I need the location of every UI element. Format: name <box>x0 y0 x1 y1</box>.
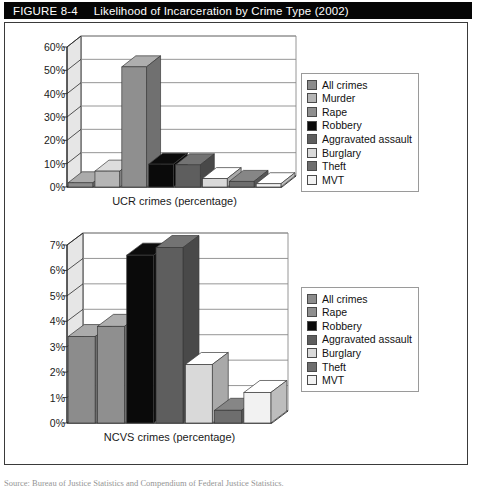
legend-item[interactable]: Rape <box>307 105 412 119</box>
legend-item[interactable]: Aggravated assault <box>307 333 412 347</box>
bar-front-face <box>95 171 120 187</box>
y-axis-tick-label: 30% <box>44 111 65 123</box>
legend-swatch-icon <box>307 107 317 117</box>
legend-item-label: Robbery <box>322 120 362 131</box>
chart-ucr-y-axis-labels: 0%10%20%30%40%50%60% <box>25 47 65 187</box>
bar-front-face <box>122 67 147 187</box>
y-axis-tick-label: 10% <box>44 158 65 170</box>
legend-item[interactable]: Theft <box>307 160 412 174</box>
bar-front-face <box>68 337 95 423</box>
y-axis-tick-label: 6% <box>50 264 65 276</box>
legend-item[interactable]: Burglary <box>307 146 412 160</box>
legend-item[interactable]: Rape <box>307 306 412 320</box>
y-axis-tick-label: 2% <box>50 366 65 378</box>
figure-number: FIGURE 8-4 <box>4 5 78 17</box>
legend-swatch-icon <box>307 161 317 171</box>
chart-ncvs-x-axis-label: NCVS crimes (percentage) <box>67 431 272 443</box>
bar-front-face <box>215 410 242 423</box>
legend-item-label: Theft <box>322 362 346 373</box>
y-axis-tick-label: 0% <box>50 417 65 429</box>
legend-swatch-icon <box>307 175 317 185</box>
y-axis-tick-label: 3% <box>50 341 65 353</box>
legend-item[interactable]: All crimes <box>307 78 412 92</box>
y-axis-tick-label: 50% <box>44 64 65 76</box>
legend-swatch-icon <box>307 321 317 331</box>
legend-swatch-icon <box>307 294 317 304</box>
legend-item[interactable]: Murder <box>307 92 412 106</box>
legend-item-label: Burglary <box>322 348 361 359</box>
legend-item-label: All crimes <box>322 294 368 305</box>
bar-front-face <box>256 184 281 187</box>
y-axis-tick-label: 0% <box>50 181 65 193</box>
chart-ucr-plot-area: 0%10%20%30%40%50%60%UCR crimes (percenta… <box>19 35 302 204</box>
y-axis-tick-label: 60% <box>44 41 65 53</box>
bar-front-face <box>185 365 212 423</box>
legend-swatch-icon <box>307 134 317 144</box>
legend-swatch-icon <box>307 80 317 90</box>
y-axis-tick-label: 5% <box>50 290 65 302</box>
bar-front-face <box>202 179 227 187</box>
legend-swatch-icon <box>307 348 317 358</box>
chart-ncvs-crimes: 0%1%2%3%4%5%6%7%NCVS crimes (percentage)… <box>19 235 455 463</box>
legend-item[interactable]: MVT <box>307 374 412 388</box>
bar-front-face <box>156 248 183 423</box>
legend-swatch-icon <box>307 93 317 103</box>
chart-ncvs-y-axis-labels: 0%1%2%3%4%5%6%7% <box>25 245 65 423</box>
y-axis-tick-label: 40% <box>44 88 65 100</box>
legend-item-label: Murder <box>322 93 355 104</box>
y-axis-tick-label: 20% <box>44 134 65 146</box>
legend-item-label: Aggravated assault <box>322 334 412 345</box>
bar-front-face <box>176 165 201 187</box>
y-axis-tick-label: 1% <box>50 392 65 404</box>
figure-frame: 0%10%20%30%40%50%60%UCR crimes (percenta… <box>4 22 468 465</box>
figure-title: Likelihood of Incarceration by Crime Typ… <box>78 5 349 17</box>
legend-swatch-icon <box>307 307 317 317</box>
legend-item[interactable]: Robbery <box>307 119 412 133</box>
chart-ncvs-legend: All crimesRapeRobberyAggravated assaultB… <box>301 287 419 392</box>
figure-header-bar: FIGURE 8-4 Likelihood of Incarceration b… <box>4 2 472 19</box>
bar-front-face <box>97 326 124 423</box>
legend-item-label: MVT <box>322 375 344 386</box>
legend-item[interactable]: Robbery <box>307 319 412 333</box>
legend-item[interactable]: Aggravated assault <box>307 132 412 146</box>
chart-ncvs-plot-area: 0%1%2%3%4%5%6%7%NCVS crimes (percentage) <box>19 235 294 441</box>
legend-item[interactable]: All crimes <box>307 292 412 306</box>
bar-front-face <box>127 255 154 423</box>
legend-item-label: Rape <box>322 107 347 118</box>
legend-item-label: All crimes <box>322 80 368 91</box>
legend-swatch-icon <box>307 362 317 372</box>
bar-front-face <box>68 183 93 187</box>
legend-item-label: Aggravated assault <box>322 134 412 145</box>
bar-front-face <box>244 392 271 423</box>
legend-item-label: Robbery <box>322 321 362 332</box>
legend-swatch-icon <box>307 148 317 158</box>
y-axis-tick-label: 4% <box>50 315 65 327</box>
legend-item-label: Theft <box>322 161 346 172</box>
legend-swatch-icon <box>307 335 317 345</box>
legend-swatch-icon <box>307 375 317 385</box>
legend-item-label: Rape <box>322 307 347 318</box>
legend-item-label: Burglary <box>322 148 361 159</box>
legend-item-label: MVT <box>322 175 344 186</box>
source-caption: Source: Bureau of Justice Statistics and… <box>4 478 474 489</box>
bar-front-face <box>229 181 254 187</box>
legend-item[interactable]: Theft <box>307 360 412 374</box>
chart-ucr-legend: All crimesMurderRapeRobberyAggravated as… <box>301 73 419 192</box>
y-axis-tick-label: 7% <box>50 239 65 251</box>
legend-item[interactable]: Burglary <box>307 346 412 360</box>
legend-swatch-icon <box>307 121 317 131</box>
legend-item[interactable]: MVT <box>307 173 412 187</box>
bar-front-face <box>149 164 174 187</box>
chart-ucr-x-axis-label: UCR crimes (percentage) <box>67 195 282 207</box>
chart-ucr-crimes: 0%10%20%30%40%50%60%UCR crimes (percenta… <box>19 35 455 231</box>
